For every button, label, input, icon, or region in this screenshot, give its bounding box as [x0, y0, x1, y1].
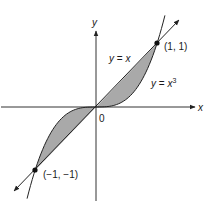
cubic-label-exp: 3	[172, 77, 176, 84]
point-label-1-1: (1, 1)	[164, 41, 187, 52]
cubic-label: y = x3	[150, 77, 176, 89]
line-label-x: x	[124, 53, 131, 64]
point-label-neg1-neg1: (−1, −1)	[43, 169, 78, 180]
y-axis-label: y	[91, 17, 98, 28]
x-axis-label: x	[197, 102, 204, 113]
point-neg1-neg1	[32, 167, 37, 172]
origin-label: 0	[99, 113, 105, 124]
point-1-1	[154, 40, 159, 45]
line-label: y = x	[108, 53, 131, 64]
cubic-label-eq: =	[156, 78, 167, 89]
line-label-eq: =	[114, 53, 125, 64]
diagram-canvas: y x 0 (1, 1) (−1, −1) y = x y = x3	[0, 0, 216, 209]
